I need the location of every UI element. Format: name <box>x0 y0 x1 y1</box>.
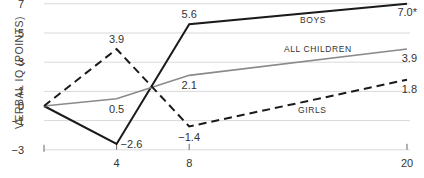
data-label: 2.1 <box>182 79 197 91</box>
series-name-label: GIRLS <box>298 105 327 115</box>
data-label: −1.4 <box>178 131 200 143</box>
data-label: 0.5 <box>109 103 124 115</box>
series-line-girls <box>44 49 407 126</box>
series-names: BOYSALL CHILDRENGIRLS <box>284 15 352 115</box>
data-labels: −2.65.67.0*0.52.13.93.9−1.41.8 <box>109 6 418 150</box>
data-label: 3.9 <box>402 52 417 64</box>
x-tick-label: 4 <box>114 157 120 169</box>
data-label: 5.6 <box>182 8 197 20</box>
series-line-all-children <box>44 49 407 106</box>
y-tick-label: 7 <box>18 0 24 10</box>
series-lines <box>44 4 407 144</box>
line-chart: 75310−1−3 4820 −2.65.67.0*0.52.13.93.9−1… <box>0 0 424 178</box>
data-label: −2.6 <box>121 138 143 150</box>
series-name-label: ALL CHILDREN <box>284 44 352 54</box>
series-line-boys <box>44 4 407 144</box>
data-label: 1.8 <box>402 83 417 95</box>
series-name-label: BOYS <box>300 15 326 25</box>
gridlines <box>44 4 410 152</box>
data-label: 7.0* <box>397 6 417 18</box>
y-tick-label: −3 <box>11 144 24 156</box>
x-tick-label: 20 <box>401 157 413 169</box>
data-label: 3.9 <box>109 33 124 45</box>
x-axis-ticks: 4820 <box>114 144 414 169</box>
x-tick-label: 8 <box>186 157 192 169</box>
y-axis-label: VERBAL IQ (POINTS) <box>13 19 25 129</box>
